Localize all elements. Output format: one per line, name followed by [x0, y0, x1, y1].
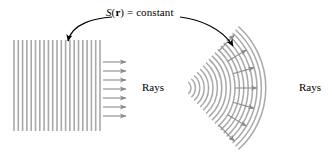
wavefront-diagram: S(r) = constant Rays Rays [0, 0, 332, 164]
spherical-wavefront-arc [197, 72, 204, 104]
rays-label-right: Rays [299, 81, 321, 93]
plane-ray-arrows [103, 62, 126, 116]
diagram-canvas [0, 0, 332, 164]
spherical-wavefront-arc [188, 82, 191, 94]
pointer-to-plane-wavefront [68, 17, 112, 41]
spherical-wavefront-arc [191, 79, 195, 97]
rays-label-left: Rays [142, 81, 164, 93]
pointer-to-spherical-wavefront [180, 17, 233, 46]
pointer-arrows [68, 17, 233, 46]
plane-wavefront-lines [14, 40, 100, 131]
wavefront-equation-label: S(r) = constant [106, 6, 174, 18]
equals-constant: = constant [124, 6, 173, 18]
spherical-ray-arrow [219, 125, 234, 141]
